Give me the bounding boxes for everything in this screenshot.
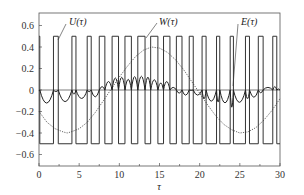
y-tick-label: −0.2 <box>16 106 34 117</box>
x-tick-label: 20 <box>195 169 205 180</box>
series-label-w: W(τ) <box>159 16 178 28</box>
x-tick-label: 5 <box>77 169 82 180</box>
y-tick-label: 0.2 <box>22 63 35 74</box>
x-tick-label: 30 <box>275 169 285 180</box>
x-tick-label: 25 <box>235 169 245 180</box>
y-tick-label: 0.4 <box>22 42 35 53</box>
series-label-e: E(τ) <box>240 16 258 28</box>
x-tick-label: 15 <box>155 169 165 180</box>
chart: 0.60.40.20−0.2−0.4−0.6 051015202530 τ U(… <box>0 0 304 195</box>
y-axis: 0.60.40.20−0.2−0.4−0.6 <box>16 20 42 160</box>
series-e-ripple <box>39 76 280 107</box>
u-label-pointer <box>58 24 66 40</box>
y-tick-label: −0.6 <box>16 149 34 160</box>
y-tick-label: 0 <box>29 85 34 96</box>
x-tick-label: 0 <box>37 169 42 180</box>
x-axis-title: τ <box>157 181 161 192</box>
y-tick-label: −0.4 <box>16 128 34 139</box>
x-axis: 051015202530 <box>37 163 286 180</box>
x-tick-label: 10 <box>114 169 124 180</box>
y-tick-label: 0.6 <box>22 20 35 31</box>
series-label-u: U(τ) <box>69 16 87 28</box>
